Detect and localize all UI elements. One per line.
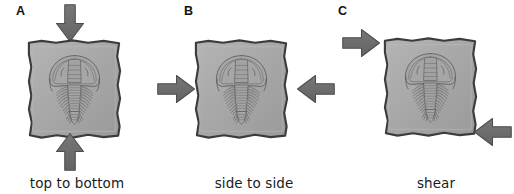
arrow-left-icon	[473, 117, 512, 147]
arrow-right-icon	[342, 28, 381, 58]
panel-b-caption: side to side	[170, 175, 338, 191]
panel-letter-b: B	[184, 4, 193, 18]
arrow-left-icon	[296, 74, 335, 104]
arrow-right-icon	[157, 74, 196, 104]
stress-types-figure: A top to bottom B side to side	[0, 0, 514, 194]
arrow-up-icon	[55, 132, 85, 171]
trilobite-fossil	[26, 38, 123, 140]
rock-slab	[382, 36, 479, 138]
panel-letter-c: C	[338, 4, 347, 18]
rock-slab	[26, 38, 123, 140]
panel-a-caption: top to bottom	[0, 175, 162, 191]
trilobite-fossil	[382, 36, 479, 138]
rock-slab	[193, 38, 290, 140]
panel-letter-a: A	[16, 4, 25, 18]
panel-a-compression-top-to-bottom: A top to bottom	[0, 0, 170, 194]
trilobite-fossil	[193, 38, 290, 140]
panel-c-caption: shear	[348, 175, 514, 191]
